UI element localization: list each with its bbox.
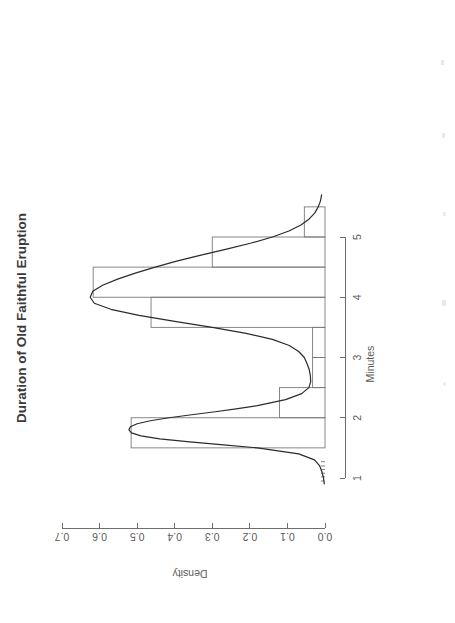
histogram-bar: [280, 388, 325, 418]
density-tick-label: 0.2: [242, 531, 257, 543]
density-tick-label: 0.4: [167, 531, 182, 543]
histogram-bar: [131, 418, 325, 448]
histogram-bar: [313, 358, 325, 388]
density-tick-label: 0.0: [318, 531, 333, 543]
density-tick-label: 0.5: [130, 531, 145, 543]
minutes-tick-label: 5: [351, 234, 363, 240]
plot-canvas: 0.00.10.20.30.40.50.60.7 12345 Density M…: [0, 0, 455, 623]
density-tick-labels: 0.00.10.20.30.40.50.60.7: [55, 531, 333, 543]
density-curve: [90, 195, 324, 484]
density-axis-title: Density: [172, 568, 208, 580]
histogram-bar: [93, 267, 325, 297]
old-faithful-density-plot: 0.00.10.20.30.40.50.60.7 12345 Density M…: [0, 0, 455, 623]
minutes-tick-label: 2: [351, 415, 363, 421]
density-tick-label: 0.3: [205, 531, 220, 543]
minutes-tick-label: 1: [351, 475, 363, 481]
histogram-bar: [212, 237, 325, 267]
minutes-tick-label: 4: [351, 294, 363, 300]
minutes-tick-labels: 12345: [351, 234, 363, 481]
density-tick-label: 0.1: [280, 531, 295, 543]
scan-artifacts: [441, 60, 446, 386]
histogram-bar: [151, 297, 325, 327]
density-tick-label: 0.7: [55, 531, 70, 543]
minutes-axis-title: Minutes: [364, 346, 376, 383]
histogram-bar: [313, 327, 325, 357]
minutes-tick-label: 3: [351, 354, 363, 360]
density-tick-label: 0.6: [92, 531, 107, 543]
histogram-bar: [304, 207, 325, 237]
page-title: Duration of Old Faithful Eruption: [14, 213, 29, 423]
